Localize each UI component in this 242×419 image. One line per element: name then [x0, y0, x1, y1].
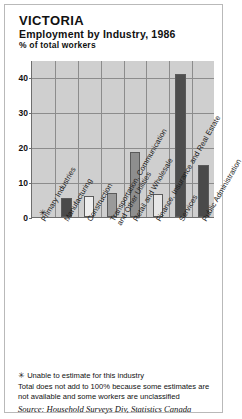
chart-title: Employment by Industry, 1986 — [19, 29, 176, 40]
chart-inner: VICTORIA Employment by Industry, 1986 % … — [5, 5, 222, 412]
y-axis-tick-mark — [29, 78, 32, 79]
footnote-star: ✳ Unable to estimate for this industry — [18, 371, 214, 380]
asterisk-icon: ✳ — [18, 371, 25, 380]
chart-card: VICTORIA Employment by Industry, 1986 % … — [4, 4, 223, 413]
page-title: VICTORIA — [19, 14, 84, 27]
y-axis-tick-label: 10 — [19, 178, 28, 188]
y-axis-tick-mark — [29, 183, 32, 184]
y-axis-label: % of total workers — [19, 41, 96, 50]
footnote-total: Total does not add to 100% because some … — [18, 382, 214, 401]
y-axis-tick-mark — [29, 218, 32, 219]
y-axis-tick-label: 0 — [23, 213, 28, 223]
footnotes: ✳ Unable to estimate for this industry T… — [18, 371, 214, 401]
y-axis-tick-mark — [29, 113, 32, 114]
y-axis-tick-label: 20 — [19, 143, 28, 153]
footnote-star-text: Unable to estimate for this industry — [27, 371, 144, 380]
y-axis-tick-label: 40 — [19, 73, 28, 83]
y-axis-tick-mark — [29, 148, 32, 149]
y-axis-tick-label: 30 — [19, 108, 28, 118]
source-line: Source: Household Surveys Div, Statistic… — [18, 404, 191, 414]
